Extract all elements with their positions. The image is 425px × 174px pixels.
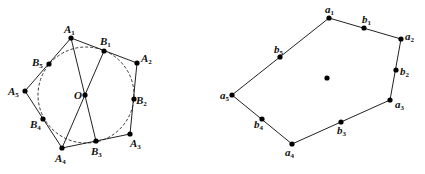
vertex-label: A1 [63, 23, 75, 37]
left-figure-pentagon-incircle: A1A2A3A4A5B1B2B3B4B5O [7, 23, 152, 166]
midpoint-label: b2 [400, 65, 410, 79]
vertex-point [387, 97, 392, 102]
vertex-point [229, 92, 234, 97]
vertex-label: a3 [395, 98, 405, 112]
vertex-point [398, 36, 403, 41]
midpoint [259, 116, 264, 121]
midpoint-label: b1 [362, 13, 372, 27]
vertex-label: A2 [140, 52, 152, 66]
center-point [82, 92, 87, 97]
geometry-figures: A1A2A3A4A5B1B2B3B4B5O a1a2a3a4a5b1b2b3b4… [0, 0, 425, 174]
chord-A4-B1 [62, 51, 104, 148]
tangent-label: B4 [29, 118, 41, 132]
vertex-label: A3 [129, 137, 141, 151]
tangent-label: B1 [99, 35, 111, 49]
midpoint [361, 25, 366, 30]
center-point [324, 75, 329, 80]
tangent-label: B2 [135, 94, 147, 108]
vertex-label: a2 [405, 30, 415, 44]
vertex-label: a1 [325, 3, 335, 17]
vertex-label: a4 [285, 146, 295, 160]
center-label: O [74, 89, 82, 101]
midpoint-label: b3 [337, 124, 347, 138]
vertex-point [134, 60, 139, 65]
vertex-point [22, 88, 27, 93]
vertex-label: A5 [7, 85, 19, 99]
tangent-point [40, 116, 45, 121]
midpoint [393, 67, 398, 72]
tangent-point [93, 138, 98, 143]
right-figure-pentagon-midpoints: a1a2a3a4a5b1b2b3b4b5 [220, 3, 415, 160]
vertex-label: a5 [220, 89, 230, 103]
vertex-point [127, 131, 132, 136]
vertex-label: A4 [54, 152, 66, 166]
tangent-label: B3 [90, 145, 102, 159]
vertex-point [59, 145, 64, 150]
tangent-label: B5 [31, 56, 43, 70]
tangent-point [101, 48, 106, 53]
tangent-point [46, 61, 51, 66]
midpoint-label: b5 [274, 43, 284, 57]
